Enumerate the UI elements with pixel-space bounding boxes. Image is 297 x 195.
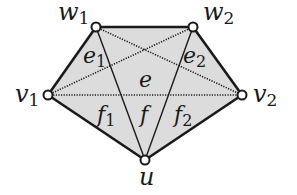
vertex-w2 <box>189 23 198 32</box>
vertex-v1 <box>44 91 53 100</box>
vertex-label-w2: w2 <box>203 0 234 28</box>
region-label-e: e <box>139 67 152 92</box>
pentagon-face-fill <box>48 27 242 160</box>
vertex-label-v2: v2 <box>253 80 277 110</box>
vertex-label-v1: v1 <box>15 80 39 110</box>
graph-diagram: e1e2ef1ff2 w1w2v1v2u <box>0 0 297 195</box>
vertex-v2 <box>238 91 247 100</box>
vertex-label-w1: w1 <box>58 0 89 28</box>
vertex-w1 <box>92 23 101 32</box>
vertex-label-u: u <box>139 163 154 191</box>
